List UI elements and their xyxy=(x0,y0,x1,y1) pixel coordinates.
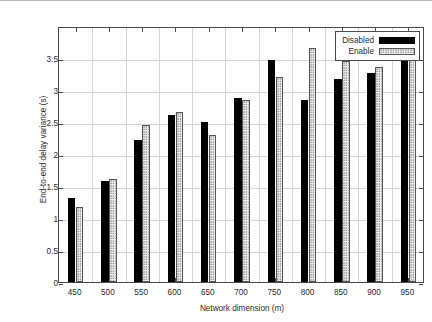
y-tick-label: 1.5 xyxy=(47,183,58,192)
x-axis-title: Network dimension (m) xyxy=(58,304,426,313)
legend-swatch-disabled xyxy=(379,37,415,44)
bar-enable xyxy=(109,179,117,282)
gridline-vertical xyxy=(225,28,226,282)
y-tick-mark-right xyxy=(419,252,423,253)
y-tick-mark-right xyxy=(419,156,423,157)
bar-disabled xyxy=(68,198,76,282)
x-tick-mark-top xyxy=(309,28,310,32)
x-tick-label: 950 xyxy=(401,288,415,297)
x-tick-label: 850 xyxy=(334,288,348,297)
y-tick-mark xyxy=(59,156,63,157)
x-tick-mark-top xyxy=(142,28,143,32)
bar-enable xyxy=(209,135,217,282)
legend-label-disabled: Disabled xyxy=(342,36,374,45)
legend-swatch-enable xyxy=(379,48,415,55)
y-tick-label: 0.5 xyxy=(47,247,58,256)
plot-inner xyxy=(59,28,423,282)
bar-disabled xyxy=(268,60,276,282)
y-axis-title: End-to-end delay variance (s) xyxy=(39,30,48,270)
bar-disabled xyxy=(134,140,142,282)
y-tick-mark xyxy=(59,124,63,125)
gridline-vertical xyxy=(392,28,393,282)
bar-disabled xyxy=(101,181,109,282)
y-tick-mark xyxy=(59,220,63,221)
x-tick-label: 750 xyxy=(267,288,281,297)
bar-disabled xyxy=(168,115,176,282)
bar-disabled xyxy=(401,38,409,282)
x-tick-label: 500 xyxy=(101,288,115,297)
y-tick-mark-right xyxy=(419,220,423,221)
gridline-vertical xyxy=(159,28,160,282)
x-tick-label: 900 xyxy=(367,288,381,297)
bar-enable xyxy=(309,48,317,282)
gridline-vertical xyxy=(259,28,260,282)
chart-figure: End-to-end delay variance (s) Network di… xyxy=(0,0,432,322)
x-tick-label: 650 xyxy=(201,288,215,297)
gridline-vertical xyxy=(192,28,193,282)
bar-enable xyxy=(375,67,383,282)
x-tick-mark-top xyxy=(275,28,276,32)
y-tick-label: 3.5 xyxy=(47,55,58,64)
x-tick-mark-top xyxy=(109,28,110,32)
gridline-vertical xyxy=(325,28,326,282)
x-tick-mark-top xyxy=(76,28,77,32)
bar-disabled xyxy=(301,100,309,282)
bar-enable xyxy=(276,77,284,282)
y-tick-mark xyxy=(59,60,63,61)
x-tick-label: 700 xyxy=(234,288,248,297)
y-tick-mark-right xyxy=(419,284,423,285)
chart-legend: Disabled Enable xyxy=(335,31,420,61)
y-tick-mark xyxy=(59,92,63,93)
x-tick-label: 450 xyxy=(68,288,82,297)
gridline-vertical xyxy=(292,28,293,282)
x-tick-label: 550 xyxy=(134,288,148,297)
x-tick-mark-top xyxy=(175,28,176,32)
bar-disabled xyxy=(201,122,209,282)
bar-disabled xyxy=(234,98,242,282)
gridline-vertical xyxy=(126,28,127,282)
y-tick-mark xyxy=(59,188,63,189)
x-tick-label: 600 xyxy=(168,288,182,297)
y-tick-mark-right xyxy=(419,188,423,189)
legend-label-enable: Enable xyxy=(349,47,375,56)
bar-enable xyxy=(409,43,417,282)
x-tick-mark-top xyxy=(242,28,243,32)
gridline-vertical xyxy=(358,28,359,282)
x-tick-mark-top xyxy=(209,28,210,32)
bar-enable xyxy=(76,207,84,282)
y-tick-mark xyxy=(59,252,63,253)
legend-item-enable: Enable xyxy=(342,46,415,57)
y-tick-label: 2.5 xyxy=(47,119,58,128)
bar-enable xyxy=(242,100,250,282)
y-tick-mark xyxy=(59,284,63,285)
plot-area: Disabled Enable xyxy=(58,27,424,283)
bar-enable xyxy=(142,125,150,282)
bar-disabled xyxy=(334,79,342,282)
gridline-vertical xyxy=(92,28,93,282)
x-tick-label: 800 xyxy=(301,288,315,297)
bar-enable xyxy=(342,61,350,282)
legend-item-disabled: Disabled xyxy=(342,35,415,46)
bar-disabled xyxy=(367,73,375,282)
y-tick-mark-right xyxy=(419,124,423,125)
y-tick-mark-right xyxy=(419,92,423,93)
bar-enable xyxy=(176,112,184,282)
